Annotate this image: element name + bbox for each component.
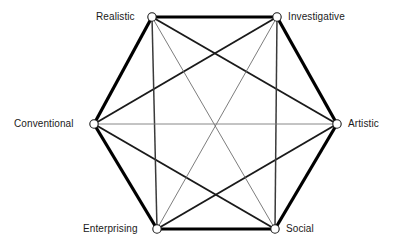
edge-enterprising-conventional bbox=[94, 124, 157, 229]
node-investigative[interactable] bbox=[273, 13, 281, 21]
node-label-conventional: Conventional bbox=[14, 118, 74, 129]
edge-investigative-social bbox=[275, 17, 277, 229]
edges-layer bbox=[94, 17, 337, 229]
edge-artistic-social bbox=[275, 124, 337, 229]
edge-investigative-artistic bbox=[277, 17, 337, 124]
node-label-investigative: Investigative bbox=[288, 11, 345, 22]
node-label-artistic: Artistic bbox=[348, 118, 379, 129]
edge-investigative-enterprising bbox=[157, 17, 277, 229]
edge-realistic-artistic bbox=[152, 17, 337, 124]
node-label-enterprising: Enterprising bbox=[83, 223, 138, 234]
node-social[interactable] bbox=[271, 225, 279, 233]
edge-realistic-enterprising bbox=[152, 17, 157, 229]
node-label-social: Social bbox=[286, 223, 314, 234]
edge-realistic-social bbox=[152, 17, 275, 229]
nodes-layer bbox=[90, 13, 341, 233]
node-enterprising[interactable] bbox=[153, 225, 161, 233]
node-conventional[interactable] bbox=[90, 120, 98, 128]
node-label-realistic: Realistic bbox=[96, 11, 135, 22]
node-artistic[interactable] bbox=[333, 120, 341, 128]
node-realistic[interactable] bbox=[148, 13, 156, 21]
hexagon-diagram: RealisticInvestigativeArtisticSocialEnte… bbox=[0, 0, 396, 248]
